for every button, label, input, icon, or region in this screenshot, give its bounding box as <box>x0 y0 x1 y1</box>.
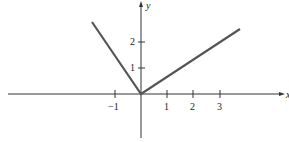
y-tick-label: 2 <box>130 36 135 47</box>
x-axis-label: x <box>285 89 289 100</box>
x-axis-arrow-icon <box>279 92 285 96</box>
x-tick-label: 2 <box>190 101 195 112</box>
y-tick-label: 1 <box>130 62 135 73</box>
y-axis-label: y <box>145 0 151 11</box>
x-tick-label: 1 <box>164 101 169 112</box>
x-tick-label: −1 <box>108 101 119 112</box>
y-axis-arrow-icon <box>139 1 143 7</box>
x-tick-label: 3 <box>217 101 222 112</box>
graph: x y −1 1 2 3 1 2 <box>0 0 289 142</box>
function-curve <box>92 22 240 94</box>
